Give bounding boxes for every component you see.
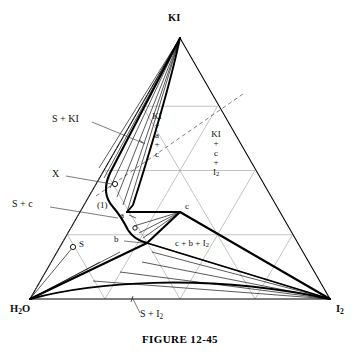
figure-caption: FIGURE 12-45 — [0, 333, 360, 345]
region-ki-c-i2-line-5: I2 — [206, 168, 226, 178]
apex-label-ki: KI — [168, 12, 180, 23]
point-label-b: b — [114, 235, 119, 244]
callout-s-plus-c: S + c — [12, 199, 33, 210]
marker-point-S[interactable] — [70, 244, 75, 249]
region-ki-c-i2: KI + c + I2 — [206, 130, 226, 178]
point-label-a: a — [120, 211, 124, 220]
marker-point-inner[interactable] — [133, 226, 137, 230]
callout-s-plus-ki: S + KI — [52, 114, 79, 125]
tieline-b-h2o — [30, 243, 147, 299]
figure-container: KI H2O I2 S + KI X S + c S + I2 (1) a b … — [0, 0, 360, 361]
callout-s-plus-i2: S + I2 — [140, 309, 163, 321]
callout-x: X — [52, 169, 59, 180]
point-label-s: S — [79, 240, 84, 249]
region-ki-a-c-line-5: c — [148, 150, 166, 159]
tieline-c-i2 — [180, 212, 330, 299]
marker-point-X[interactable] — [112, 181, 117, 186]
ternary-diagram — [0, 0, 360, 361]
triangle-outline — [30, 38, 330, 299]
region-c-b-i2: c + b + I2 — [175, 239, 209, 249]
tielines-abc-fan — [134, 212, 180, 243]
phase-boundaries — [30, 38, 330, 299]
region-ki-c-i2-line-4: + — [206, 158, 226, 167]
corner-label-h2o: H2O — [10, 303, 30, 316]
corner-label-i2: I2 — [336, 303, 344, 316]
region-ki-a-c: KI + a + c — [148, 112, 166, 159]
point-label-c: c — [185, 202, 189, 211]
callout-point-1: (1) — [97, 201, 108, 210]
